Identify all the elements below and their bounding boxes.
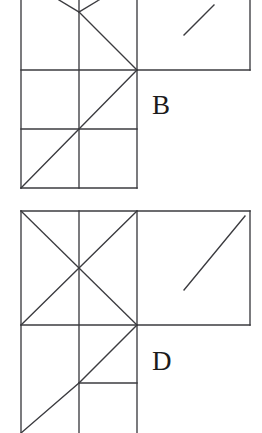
figure-d-label: D [152,346,172,376]
figure-canvas: B D [0,0,262,433]
figure-b-label: B [152,90,170,120]
figure-sheet: B D [0,0,262,433]
